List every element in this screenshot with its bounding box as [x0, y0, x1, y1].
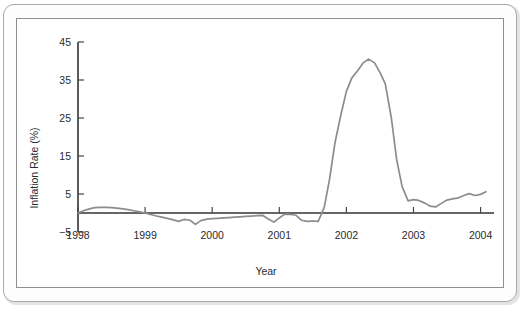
x-tick-label: 2001: [268, 229, 292, 241]
screenshot-root: Inflation Rate (%) Year −5515253545 1998…: [0, 0, 525, 313]
y-axis-title: Inflation Rate (%): [28, 127, 40, 208]
x-tick-label: 1998: [66, 229, 90, 241]
x-tick-label: 2000: [201, 229, 225, 241]
y-tick-label: 45: [59, 36, 71, 48]
x-tick-label: 1999: [133, 229, 157, 241]
y-tick-label: 5: [65, 188, 71, 200]
y-tick-label: 15: [59, 150, 71, 162]
x-tick-label: 2003: [402, 229, 426, 241]
y-axis: −5515253545: [59, 36, 84, 238]
x-axis-title: Year: [255, 265, 277, 277]
y-tick-label: 35: [59, 74, 71, 86]
inflation-rate-line-chart: Inflation Rate (%) Year −5515253545 1998…: [16, 18, 504, 288]
x-tick-label: 2004: [469, 229, 493, 241]
chart-container: Inflation Rate (%) Year −5515253545 1998…: [16, 18, 504, 288]
data-series-group: [78, 59, 486, 224]
x-tick-label: 2002: [335, 229, 359, 241]
x-axis: 1998199920002001200220032004: [66, 207, 494, 241]
data-line-inflation-rate: [78, 59, 486, 224]
y-tick-label: 25: [59, 112, 71, 124]
